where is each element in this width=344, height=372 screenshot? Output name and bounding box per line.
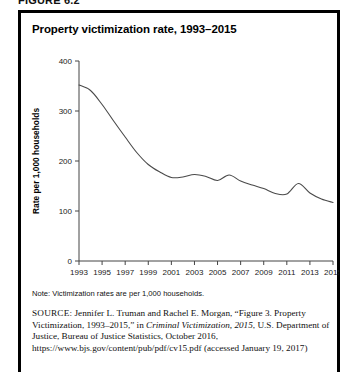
data-series-line: [79, 85, 333, 203]
y-tick-label: 0: [68, 257, 73, 266]
y-tick-label: 200: [59, 157, 73, 166]
y-tick-label: 400: [59, 57, 73, 66]
x-tick-label: 2001: [162, 268, 180, 277]
x-tick-label: 2003: [186, 268, 204, 277]
y-axis-title: Rate per 1,000 households: [31, 108, 41, 214]
source-text: SOURCE: Jennifer L. Truman and Rachel E.…: [32, 308, 330, 354]
x-tick-label: 2005: [209, 268, 227, 277]
y-axis-ticks: 0100200300400: [59, 57, 79, 266]
y-tick-label: 100: [59, 207, 73, 216]
note-text: Note: Victimization rates are per 1,000 …: [32, 289, 330, 299]
x-tick-label: 1993: [70, 268, 88, 277]
source-label: SOURCE:: [32, 308, 72, 318]
x-tick-label: 2007: [232, 268, 250, 277]
x-tick-label: 2009: [255, 268, 273, 277]
x-tick-label: 2013: [301, 268, 319, 277]
figure-box: Property victimization rate, 1993–2015 0…: [18, 10, 340, 372]
x-tick-label: 1999: [139, 268, 157, 277]
y-tick-label: 300: [59, 107, 73, 116]
x-tick-label: 1995: [93, 268, 111, 277]
chart-plot-area: 0100200300400 19931995199719992001200320…: [25, 47, 339, 297]
source-italic-title: Criminal Victimization, 2015: [146, 320, 253, 330]
x-tick-label: 2011: [278, 268, 296, 277]
x-tick-label: 2015: [324, 268, 339, 277]
chart-title: Property victimization rate, 1993–2015: [32, 23, 237, 35]
property-victimization-line-chart: 0100200300400 19931995199719992001200320…: [25, 47, 339, 297]
x-axis-ticks: 1993199519971999200120032005200720092011…: [70, 261, 339, 277]
figure-label: FIGURE 6.2: [18, 0, 80, 6]
x-tick-label: 1997: [116, 268, 134, 277]
figure-notes: Note: Victimization rates are per 1,000 …: [32, 289, 330, 354]
